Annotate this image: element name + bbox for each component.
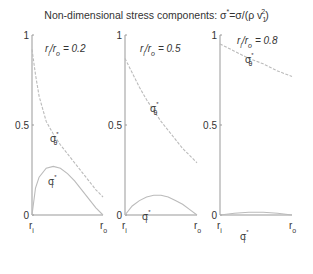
sigma-r-curve [125, 195, 197, 215]
sigma-r-label: σ*r [48, 174, 57, 189]
x-tick-label-ri: ri [29, 220, 34, 234]
y-tick-label: 0 [211, 210, 217, 221]
panel-ratio-label: ri/ro= 0.5 [140, 43, 181, 57]
plot-area: 10.50rirori/ro= 0.2σ*θσ*r10.50rirori/ro=… [0, 0, 313, 274]
title-text: Non-dimensional stress components: [44, 9, 220, 21]
x-tick-label-ro: ro [100, 220, 107, 234]
chart-title: Non-dimensional stress components: σ*=σ/… [0, 8, 313, 23]
y-tick-label: 1 [23, 30, 29, 41]
y-tick-label: 1 [211, 30, 217, 41]
y-tick-label: 0.5 [108, 120, 122, 131]
panel-ratio-label: ri/ro= 0.8 [237, 35, 278, 49]
y-tick-label: 0 [116, 210, 122, 221]
x-tick-label-ri: ri [122, 220, 127, 234]
sigma-r-label: σ*r [142, 209, 151, 224]
figure: Non-dimensional stress components: σ*=σ/… [0, 0, 313, 274]
y-tick-label: 0.5 [15, 120, 29, 131]
panel-ratio-label: ri/ro= 0.2 [45, 43, 86, 57]
sigma-r-curve [32, 166, 103, 215]
sigma-theta-curve [220, 44, 292, 76]
y-tick-label: 0 [23, 210, 29, 221]
sigma-theta-curve [32, 49, 103, 197]
y-tick-label: 0.5 [203, 120, 217, 131]
sigma-theta-label: σ*θ [50, 131, 59, 146]
x-tick-label-ri: ri [217, 220, 222, 234]
x-tick-label-ro: ro [289, 220, 296, 234]
sigma-r-label: σ*r [240, 229, 249, 244]
sigma-theta-label: σ*θ [150, 101, 159, 116]
y-tick-label: 1 [116, 30, 122, 41]
sigma-theta-curve [125, 58, 197, 162]
x-tick-label-ro: ro [194, 220, 201, 234]
